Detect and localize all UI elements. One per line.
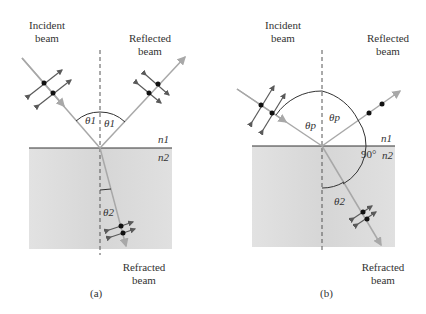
label-line: beam (118, 274, 170, 287)
dot (259, 103, 264, 108)
dot (270, 111, 275, 116)
dot (361, 210, 366, 215)
angle-arc-incident-b (276, 91, 322, 115)
label-line: beam (122, 45, 178, 58)
thetap-incident-label: θp (305, 119, 316, 131)
refracted-beam-label-a: Refracted beam (118, 261, 170, 287)
theta2-refracted-label: θ2 (103, 206, 114, 218)
label-line: Reflected (122, 32, 178, 45)
label-line: Incident (22, 19, 72, 32)
refracted-beam-label-b: Refracted beam (357, 261, 409, 287)
n2-label-b: n2 (382, 149, 393, 161)
n2-label-a: n2 (158, 151, 169, 163)
reflected-beam-a (100, 57, 185, 148)
n1-label-a: n1 (158, 133, 169, 145)
label-line: beam (258, 32, 308, 45)
caption-b: (b) (320, 287, 333, 299)
dot (367, 111, 372, 116)
dot (365, 217, 370, 222)
dot (119, 224, 124, 229)
reflected-beam-label-b: Reflected beam (360, 32, 416, 58)
label-line: beam (360, 45, 416, 58)
label-line: Refracted (357, 261, 409, 274)
label-line: beam (357, 274, 409, 287)
polarization-arrows-incident-b (252, 86, 285, 130)
incident-beam-label-a: Incident beam (22, 19, 72, 45)
dot (156, 82, 161, 87)
angle-arc-reflected-b (322, 91, 358, 120)
dot (380, 102, 385, 107)
theta1-reflected-label: θ1 (104, 117, 115, 129)
dot (51, 91, 56, 96)
reflected-beam-label-a: Reflected beam (122, 32, 178, 58)
thetap-reflected-label: θp (329, 111, 340, 123)
dot (147, 91, 152, 96)
n1-label-b: n1 (381, 132, 392, 144)
theta2-refracted-label-b: θ2 (334, 195, 345, 207)
label-line: Refracted (118, 261, 170, 274)
incident-beam-label-b: Incident beam (258, 19, 308, 45)
caption-a: (a) (90, 287, 102, 299)
right-angle-label: 90° (361, 148, 376, 160)
label-line: beam (22, 32, 72, 45)
theta1-incident-label: θ1 (85, 114, 96, 126)
dot (42, 81, 47, 86)
dot (121, 231, 126, 236)
label-line: Incident (258, 19, 308, 32)
label-line: Reflected (360, 32, 416, 45)
